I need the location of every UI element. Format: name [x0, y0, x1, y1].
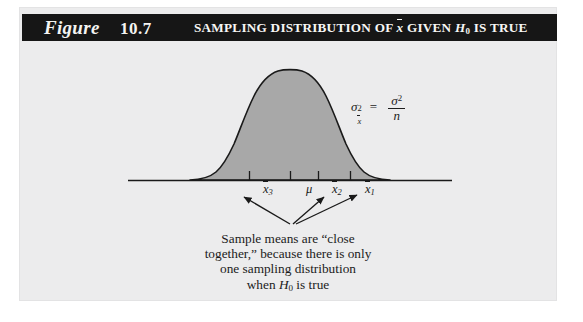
figure-title-prefix: SAMPLING DISTRIBUTION OF	[194, 20, 397, 35]
x-glyph: x	[357, 116, 361, 126]
note-line-4-suffix: is true	[293, 277, 329, 292]
overbar	[357, 115, 360, 116]
figure-title-suffix: IS TRUE	[470, 20, 527, 35]
figure-number: 10.7	[120, 19, 152, 39]
x-glyph: x	[263, 182, 269, 196]
figure-title-middle: GIVEN	[403, 20, 455, 35]
x-glyph: x	[332, 182, 338, 196]
axis-label-x-bar-2: x2	[332, 182, 342, 197]
overbar	[365, 181, 370, 182]
x-bar-glyph: x	[332, 182, 338, 197]
variance-fraction: σ2 n	[388, 94, 405, 123]
overbar	[332, 181, 337, 182]
x-bar-subscript: x	[357, 116, 361, 126]
h-symbol-note: H	[279, 277, 289, 292]
mu-glyph: μ	[306, 182, 312, 196]
figure-label-word: Figure	[44, 17, 100, 39]
overbar	[397, 19, 403, 20]
axis-label-mu: μ	[306, 182, 312, 197]
axis-label-subscript: 2	[338, 187, 342, 197]
figure-title-bar: Figure 10.7 SAMPLING DISTRIBUTION OF x G…	[22, 14, 557, 41]
sigma-lhs-subscript: x	[357, 116, 361, 126]
equals-sign: =	[370, 99, 377, 114]
plot-area	[20, 41, 556, 221]
note-line-2: together,” because there is only	[138, 246, 438, 261]
fraction-denominator: n	[388, 108, 405, 123]
x-bar-glyph: x	[263, 182, 269, 197]
figure-panel: Figure 10.7 SAMPLING DISTRIBUTION OF x G…	[20, 8, 556, 300]
x-bar-symbol-title: x	[397, 20, 404, 36]
h-symbol-title: H	[455, 20, 466, 35]
variance-formula: σ2x = σ2 n	[351, 94, 406, 123]
figure-note: Sample means are “close together,” becau…	[138, 231, 438, 296]
fraction-numerator: σ2	[388, 94, 405, 108]
axis-label-subscript: 1	[371, 187, 375, 197]
note-line-4-prefix: when	[247, 277, 279, 292]
axis-label-x-bar-3: x3	[263, 182, 273, 197]
note-line-1: Sample means are “close	[138, 231, 438, 246]
distribution-chart	[20, 41, 556, 221]
overbar	[263, 181, 268, 182]
axis-label-x-bar-1: x1	[365, 182, 375, 197]
x-glyph: x	[365, 182, 371, 196]
sigma-lhs-exponent: 2	[357, 103, 361, 113]
sigma-num-exponent: 2	[398, 93, 402, 103]
x-glyph: x	[397, 20, 404, 35]
note-line-3: one sampling distribution	[138, 261, 438, 276]
x-bar-glyph: x	[365, 182, 371, 197]
figure-title-text: SAMPLING DISTRIBUTION OF x GIVEN H0 IS T…	[194, 20, 528, 36]
axis-label-subscript: 3	[269, 187, 273, 197]
note-line-4: when H0 is true	[138, 277, 438, 296]
